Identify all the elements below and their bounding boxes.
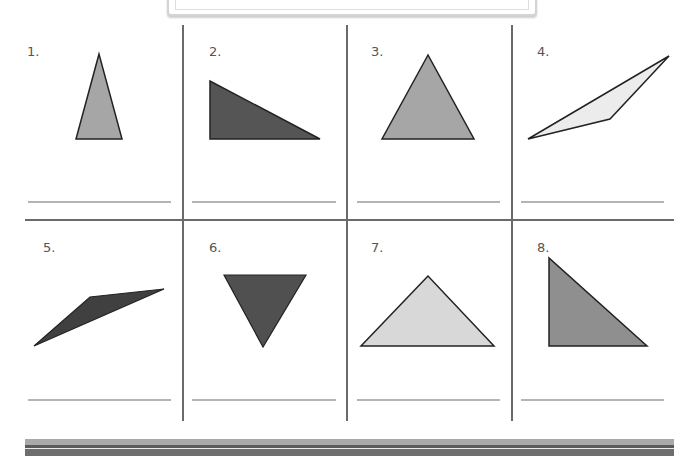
triangle-5 — [34, 289, 164, 346]
problem-number-1: 1. — [27, 45, 39, 58]
triangle-shapes — [34, 54, 669, 347]
triangle-3 — [382, 55, 474, 139]
bottom-bar-lower-band — [25, 449, 674, 456]
grid-lines — [25, 25, 674, 421]
problem-number-6: 6. — [209, 241, 221, 254]
worksheet-grid — [0, 0, 698, 470]
problem-number-5: 5. — [43, 241, 55, 254]
problem-number-2: 2. — [209, 45, 221, 58]
triangle-4 — [528, 56, 669, 139]
triangle-1 — [76, 54, 122, 139]
problem-number-7: 7. — [371, 241, 383, 254]
triangle-2 — [210, 81, 320, 139]
triangle-6 — [224, 275, 306, 347]
problem-number-4: 4. — [537, 45, 549, 58]
triangle-7 — [361, 276, 494, 346]
problem-number-8: 8. — [537, 241, 549, 254]
triangle-8 — [549, 258, 647, 346]
problem-number-3: 3. — [371, 45, 383, 58]
